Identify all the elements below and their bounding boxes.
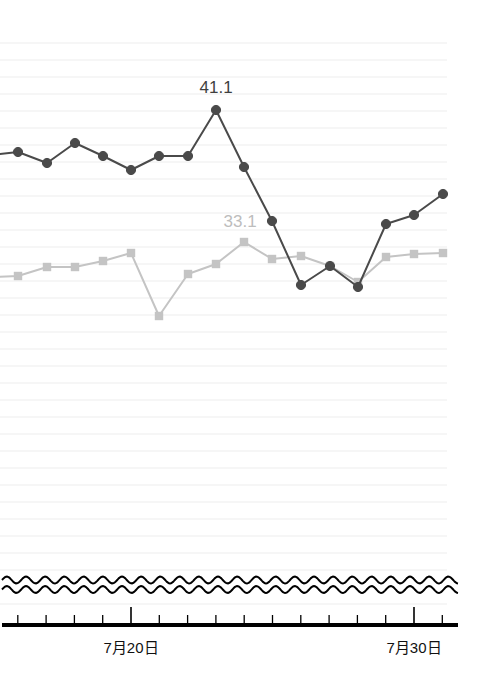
x-axis-tick-label-right: 7月30日	[387, 636, 442, 657]
chart-container: 41.1 33.1 7月20日 7月30日	[0, 0, 483, 676]
data-label-light-peak: 33.1	[224, 212, 257, 232]
line-chart-plot	[0, 0, 483, 676]
data-label-dark-peak: 41.1	[200, 78, 233, 98]
x-axis	[0, 577, 458, 625]
x-axis-tick-label-left: 7月20日	[104, 636, 159, 657]
gridlines	[0, 43, 447, 570]
